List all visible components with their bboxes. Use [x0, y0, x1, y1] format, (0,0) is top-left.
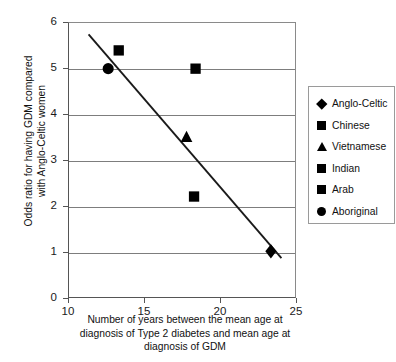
- data-layer: [69, 23, 295, 297]
- square-marker-icon: [315, 183, 328, 196]
- y-tick-label-3: 3: [35, 154, 57, 166]
- legend-label-arab: Arab: [332, 184, 354, 195]
- x-tick-mark-20: [220, 298, 221, 303]
- square-marker-icon: [315, 119, 328, 132]
- legend-label-anglo-celtic: Anglo-Celtic: [332, 98, 388, 109]
- square-marker-icon: [315, 162, 328, 175]
- y-tick-label-4: 4: [35, 108, 57, 120]
- y-axis-title-line-1: Odds ratio for having GDM compared: [23, 55, 34, 226]
- legend-label-vietnamese: Vietnamese: [332, 141, 386, 152]
- y-axis-title: Odds ratio for having GDM compared with …: [22, 19, 48, 263]
- diamond-marker-icon: [315, 97, 328, 110]
- x-axis-title-line-2: diagnosis of Type 2 diabetes and mean ag…: [80, 328, 290, 339]
- legend-item-chinese[interactable]: Chinese: [315, 115, 394, 137]
- legend-item-anglo-celtic[interactable]: Anglo-Celtic: [315, 93, 394, 115]
- triangle-marker-icon: [315, 140, 328, 153]
- x-axis-title-line-3: diagnosis of GDM: [144, 341, 226, 352]
- y-tick-label-0: 0: [35, 292, 57, 304]
- scatter-chart-figure: Odds ratio for having GDM compared with …: [0, 0, 396, 362]
- data-point-vietnamese: [181, 131, 193, 142]
- x-tick-mark-10: [68, 298, 69, 303]
- x-axis-title: Number of years between the mean age at …: [40, 313, 330, 354]
- circle-marker-icon: [315, 205, 328, 218]
- y-axis-title-line-2: with Anglo-Celtic women: [36, 85, 47, 197]
- data-point-chinese: [190, 64, 200, 74]
- x-tick-mark-25: [296, 298, 297, 303]
- legend: Anglo-CelticChineseVietnameseIndianArabA…: [308, 86, 395, 224]
- legend-item-arab[interactable]: Arab: [315, 179, 394, 201]
- legend-label-indian: Indian: [332, 163, 360, 174]
- y-tick-label-1: 1: [35, 246, 57, 258]
- y-tick-label-5: 5: [35, 62, 57, 74]
- legend-item-vietnamese[interactable]: Vietnamese: [315, 136, 394, 158]
- legend-label-chinese: Chinese: [332, 120, 370, 131]
- legend-label-aboriginal: Aboriginal: [332, 206, 378, 217]
- data-point-indian: [189, 191, 199, 201]
- y-tick-label-2: 2: [35, 200, 57, 212]
- x-axis-title-line-1: Number of years between the mean age at: [87, 314, 282, 325]
- data-point-anglo-celtic: [265, 244, 276, 258]
- legend-item-aboriginal[interactable]: Aboriginal: [315, 201, 394, 223]
- x-tick-mark-15: [144, 298, 145, 303]
- plot-area: [68, 22, 296, 298]
- data-point-arab: [114, 45, 124, 55]
- y-tick-label-6: 6: [35, 16, 57, 28]
- data-point-aboriginal: [103, 63, 114, 74]
- trendline: [89, 34, 282, 258]
- legend-item-indian[interactable]: Indian: [315, 158, 394, 180]
